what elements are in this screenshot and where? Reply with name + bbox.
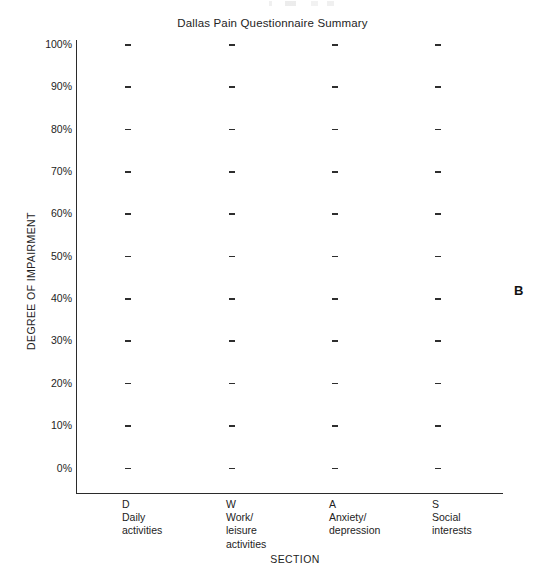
scale-tick-marker[interactable] [229,256,235,258]
x-category-code: A [329,498,424,511]
scale-tick-marker[interactable] [229,340,235,342]
y-tick-label: 30% [4,334,72,346]
scale-tick-marker[interactable] [332,213,338,215]
scale-tick-marker[interactable] [435,468,441,470]
scale-tick-marker[interactable] [125,86,131,88]
x-category-code: D [122,498,217,511]
y-axis-line [76,40,77,494]
x-category-name: Social interests [432,511,527,537]
scale-tick-marker[interactable] [435,425,441,427]
scale-tick-marker[interactable] [125,383,131,385]
y-tick-label: 70% [4,165,72,177]
y-tick-label: 80% [4,123,72,135]
scale-tick-marker[interactable] [332,256,338,258]
scale-tick-marker[interactable] [332,298,338,300]
x-category-name: Anxiety/ depression [329,511,424,537]
y-tick-label: 40% [4,292,72,304]
scale-tick-marker[interactable] [229,468,235,470]
scale-tick-marker[interactable] [435,298,441,300]
scale-tick-marker[interactable] [125,44,131,46]
scale-tick-marker[interactable] [125,425,131,427]
scale-tick-marker[interactable] [125,340,131,342]
scale-tick-marker[interactable] [332,425,338,427]
scale-tick-marker[interactable] [125,298,131,300]
scale-tick-marker[interactable] [125,129,131,131]
scale-tick-marker[interactable] [435,213,441,215]
scale-tick-marker[interactable] [125,256,131,258]
x-category-name: Work/ leisure activities [226,511,321,551]
scale-tick-marker[interactable] [435,44,441,46]
scale-tick-marker[interactable] [229,44,235,46]
y-tick-label-group: 100%90%80%70%60%50%40%30%20%10%0% [0,0,72,573]
scale-tick-marker[interactable] [435,86,441,88]
scale-tick-marker[interactable] [229,383,235,385]
x-category-code: W [226,498,321,511]
x-category-label: DDaily activities [122,498,217,538]
y-tick-label: 90% [4,80,72,92]
scale-tick-marker[interactable] [332,171,338,173]
scale-tick-marker[interactable] [435,340,441,342]
y-tick-label: 50% [4,250,72,262]
x-category-code: S [432,498,527,511]
scale-tick-marker[interactable] [332,383,338,385]
x-category-label: SSocial interests [432,498,527,538]
y-tick-label: 60% [4,207,72,219]
scale-tick-marker[interactable] [435,171,441,173]
y-tick-label: 20% [4,377,72,389]
scale-tick-marker[interactable] [125,468,131,470]
y-tick-label: 100% [4,38,72,50]
scale-tick-marker[interactable] [332,44,338,46]
scale-tick-marker[interactable] [435,256,441,258]
scan-artifact [262,1,352,6]
x-category-name: Daily activities [122,511,217,537]
chart-figure: Dallas Pain Questionnaire Summary B DEGR… [0,0,545,573]
scale-tick-marker[interactable] [332,468,338,470]
scale-tick-marker[interactable] [435,129,441,131]
y-tick-label: 10% [4,419,72,431]
scale-tick-marker[interactable] [229,86,235,88]
scale-tick-marker[interactable] [229,298,235,300]
scale-tick-marker[interactable] [125,171,131,173]
scale-tick-marker[interactable] [229,425,235,427]
scale-tick-marker[interactable] [229,171,235,173]
x-axis-title: SECTION [240,553,350,565]
scale-tick-marker[interactable] [332,340,338,342]
scale-tick-marker[interactable] [435,383,441,385]
y-tick-label: 0% [4,462,72,474]
scale-tick-marker[interactable] [332,86,338,88]
panel-letter-label: B [514,283,523,298]
chart-title: Dallas Pain Questionnaire Summary [0,17,545,29]
scale-tick-marker[interactable] [229,213,235,215]
scale-tick-marker[interactable] [125,213,131,215]
scale-tick-marker[interactable] [332,129,338,131]
x-axis-line [76,493,503,494]
scale-tick-marker[interactable] [229,129,235,131]
x-category-label: WWork/ leisure activities [226,498,321,551]
x-category-label: AAnxiety/ depression [329,498,424,538]
